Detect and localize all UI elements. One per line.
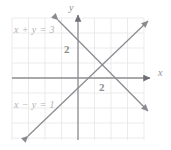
- graph-figure: x + y = 3 x − y = 1 2 2 x y: [0, 0, 171, 150]
- y-axis-name-label: y: [69, 3, 73, 13]
- equation-label-line1: x + y = 3: [14, 25, 55, 35]
- coordinate-plane-svg: [0, 0, 171, 150]
- x-axis-name-label: x: [158, 68, 162, 78]
- x-axis-tick-label-2: 2: [99, 82, 105, 93]
- equation-label-line2: x − y = 1: [14, 100, 55, 110]
- y-axis-tick-label-2: 2: [64, 44, 70, 55]
